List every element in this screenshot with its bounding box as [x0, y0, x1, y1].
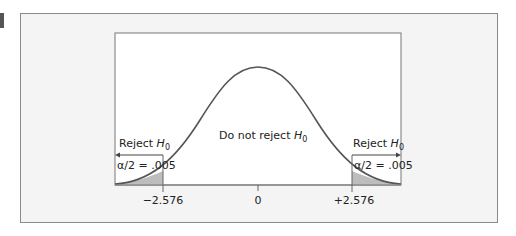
tick-neg-critical: −2.576 — [143, 194, 184, 207]
tick-pos-critical: +2.576 — [334, 194, 375, 207]
right-reject-label: Reject H0 — [353, 137, 404, 152]
tick-zero: 0 — [255, 194, 262, 207]
right-alpha-label: α/2 = .005 — [354, 159, 413, 172]
center-label: Do not reject H0 — [219, 129, 307, 144]
left-reject-label: Reject H0 — [119, 137, 170, 152]
left-alpha-label: α/2 = .005 — [117, 159, 176, 172]
